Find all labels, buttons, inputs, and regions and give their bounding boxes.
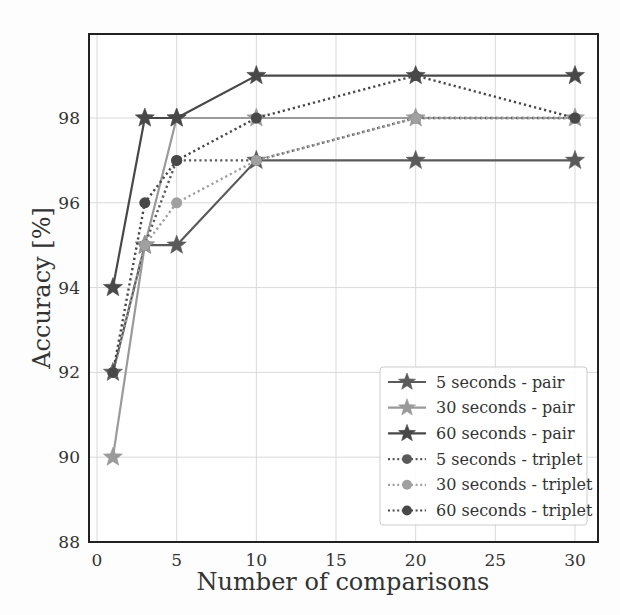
y-tick-label: 92 (58, 362, 80, 382)
circle-marker-icon (171, 197, 182, 208)
x-tick-label: 30 (564, 550, 586, 570)
circle-marker-icon (171, 155, 182, 166)
circle-marker-icon (251, 155, 262, 166)
circle-marker-icon (402, 506, 412, 516)
x-tick-label: 5 (171, 550, 182, 570)
circle-marker-icon (139, 197, 150, 208)
y-tick-label: 94 (58, 278, 80, 298)
x-axis-label: Number of comparisons (197, 568, 490, 596)
y-tick-label: 88 (58, 532, 80, 552)
circle-marker-icon (410, 70, 421, 81)
legend-label: 60 seconds - triplet (436, 501, 593, 520)
circle-marker-icon (570, 113, 581, 124)
circle-marker-icon (402, 480, 412, 490)
legend: 5 seconds - pair30 seconds - pair60 seco… (380, 367, 593, 525)
line-chart: 051015202530 889092949698 Number of comp… (0, 0, 620, 615)
x-tick-label: 15 (325, 550, 347, 570)
legend-label: 60 seconds - pair (436, 424, 575, 443)
circle-marker-icon (251, 113, 262, 124)
circle-marker-icon (402, 454, 412, 464)
circle-marker-icon (410, 113, 421, 124)
x-tick-label: 10 (246, 550, 268, 570)
chart-canvas: 051015202530 889092949698 Number of comp… (0, 0, 620, 615)
y-tick-label: 90 (58, 447, 80, 467)
y-axis-label: Accuracy [%] (28, 207, 56, 370)
circle-marker-icon (107, 367, 118, 378)
y-tick-label: 98 (58, 108, 80, 128)
legend-label: 5 seconds - triplet (436, 450, 583, 469)
legend-label: 30 seconds - triplet (436, 475, 593, 494)
y-tick-label: 96 (58, 193, 80, 213)
circle-marker-icon (139, 240, 150, 251)
x-tick-label: 0 (92, 550, 103, 570)
legend-label: 30 seconds - pair (436, 398, 575, 417)
x-tick-label: 20 (405, 550, 427, 570)
x-tick-label: 25 (485, 550, 507, 570)
legend-label: 5 seconds - pair (436, 373, 565, 392)
